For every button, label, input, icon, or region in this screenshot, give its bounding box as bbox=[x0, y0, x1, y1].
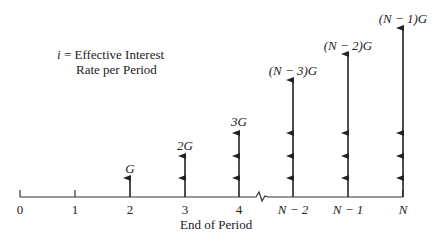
axis-title: End of Period bbox=[180, 218, 252, 231]
flow-label-period-4: 3G bbox=[231, 115, 247, 128]
gradient-arrows bbox=[130, 28, 403, 197]
interest-label-line2: Rate per Period bbox=[76, 63, 157, 76]
time-axis bbox=[20, 190, 403, 201]
tick-label-n-minus-1: N − 1 bbox=[333, 203, 363, 216]
flow-label-period-3: 2G bbox=[177, 139, 193, 152]
axis-break-icon bbox=[252, 192, 403, 201]
interest-rate-note: i = Effective Interest bbox=[57, 48, 164, 61]
tick-label-4: 4 bbox=[236, 203, 243, 216]
tick-label-0: 0 bbox=[17, 203, 24, 216]
tick-label-3: 3 bbox=[182, 203, 189, 216]
flow-label-period-n-minus-2: (N − 3)G bbox=[269, 64, 318, 77]
tick-label-1: 1 bbox=[72, 203, 79, 216]
tick-label-2: 2 bbox=[127, 203, 134, 216]
interest-label-line1: = Effective Interest bbox=[61, 47, 164, 62]
tick-label-n: N bbox=[399, 203, 408, 216]
flow-label-period-n: (N − 1)G bbox=[379, 12, 428, 25]
flow-label-period-n-minus-1: (N − 2)G bbox=[324, 39, 373, 52]
tick-label-n-minus-2: N − 2 bbox=[278, 203, 308, 216]
cash-flow-diagram bbox=[0, 0, 443, 241]
flow-label-period-2: G bbox=[125, 162, 134, 175]
